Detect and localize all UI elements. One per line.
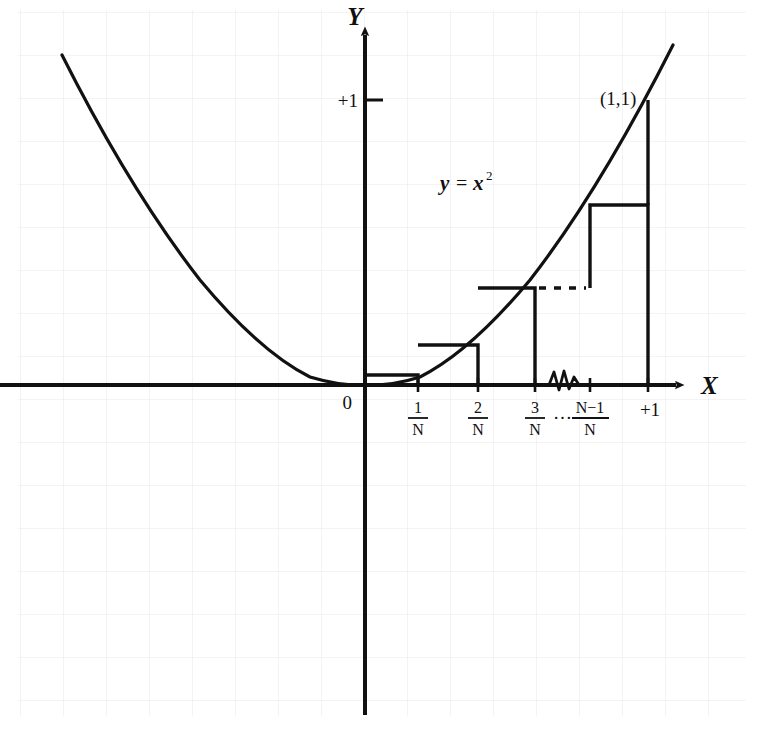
svg-text:N: N [472, 421, 484, 438]
svg-text:N: N [529, 421, 541, 438]
equation-equals: = [456, 172, 467, 194]
svg-text:3: 3 [531, 399, 539, 416]
svg-text:N: N [412, 421, 424, 438]
x-tick-label-plus-one: +1 [640, 399, 660, 420]
x-axis-label: X [700, 372, 719, 399]
svg-text:1: 1 [414, 399, 422, 416]
svg-text:2: 2 [474, 399, 482, 416]
math-figure: X Y 0 +1 1 N 2 N 3 N … N−1 N [0, 0, 764, 729]
y-tick-one-label: +1 [338, 90, 358, 111]
equation-x: x [472, 171, 484, 195]
figure-canvas: X Y 0 +1 1 N 2 N 3 N … N−1 N [0, 0, 764, 729]
origin-label: 0 [343, 392, 353, 413]
point-label-one-one: (1,1) [600, 88, 636, 110]
svg-text:N−1: N−1 [576, 399, 605, 416]
equation-exponent: 2 [486, 168, 493, 183]
x-axis-ellipsis: … [553, 402, 573, 423]
svg-text:N: N [584, 421, 596, 438]
